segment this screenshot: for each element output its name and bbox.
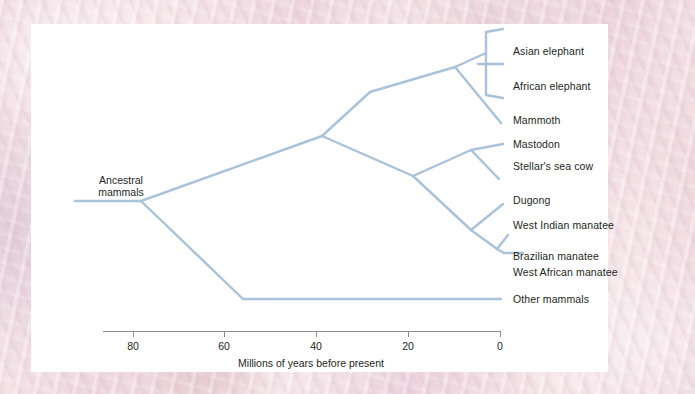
tip-label-stellars-sea-cow: Stellar's sea cow [513,160,593,172]
branch-root-to-tethytheria [141,136,322,201]
tip-label-west-indian-manatee: West Indian manatee [513,219,614,231]
branch-mammoth-tip [486,95,503,98]
tree-branches [75,29,523,299]
time-axis [103,331,500,337]
axis-tick-label-20: 20 [393,340,423,352]
axis-tick-label-60: 60 [209,340,239,352]
branch-sirenia-to-trichechidae [413,176,471,230]
tip-label-african-elephant: African elephant [513,80,591,92]
branch-sirenia-to-dugongidae [413,150,471,176]
tip-label-mammoth: Mammoth [513,114,560,126]
root-label-line2: mammals [81,186,161,198]
tip-label-asian-elephant: Asian elephant [513,45,584,57]
axis-tick-label-40: 40 [301,340,331,352]
page-background: Asian elephant African elephant Mammoth … [0,0,695,394]
tip-label-west-african-manatee: West African manatee [513,266,618,278]
branch-proboscidea-stem [370,67,455,92]
tip-label-dugong: Dugong [513,194,550,206]
branch-west-indian-manatee-tip [471,204,503,230]
axis-tick-label-80: 80 [118,340,148,352]
branch-asian-elephant-tip [486,29,503,32]
tip-label-brazilian-manatee: Brazilian manatee [513,250,599,262]
root-label-line1: Ancestral [81,174,161,186]
branch-to-mastodon [455,67,501,123]
branch-dugong-tip [471,150,499,179]
branch-root-to-other-mammals [141,201,243,299]
branch-brazilian-manatee-tip [497,235,508,249]
tip-label-mastodon: Mastodon [513,138,560,150]
axis-title: Millions of years before present [211,357,411,369]
branch-stellars-sea-cow-tip [471,144,503,150]
branch-trichechidae-to-manatee-pair [471,230,497,249]
tip-label-other-mammals: Other mammals [513,293,589,305]
figure-card: Asian elephant African elephant Mammoth … [31,24,608,372]
axis-tick-label-0: 0 [485,340,515,352]
branch-tethytheria-to-sirenia [322,136,413,176]
branch-tethytheria-to-proboscidea [322,92,370,136]
